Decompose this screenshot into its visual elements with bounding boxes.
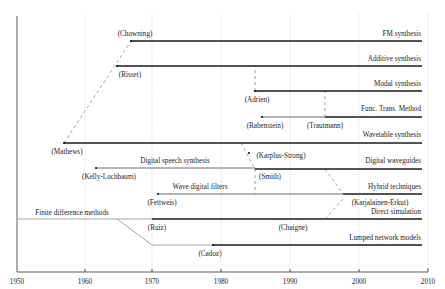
author-risset: (Risset) [119, 71, 142, 79]
author-kelly-lochbaum: (Kelly-Lochbaum) [82, 173, 136, 181]
influence-links [64, 41, 343, 219]
label-fm-synthesis: FM synthesis [382, 30, 421, 38]
author-mathews: (Mathews) [51, 148, 83, 156]
author-rabenstein: (Rabenstein) [247, 122, 284, 130]
author-chaigne: (Chaigne) [279, 224, 308, 232]
author-ruiz: (Ruiz) [148, 224, 167, 232]
tick-1960: 1960 [78, 278, 93, 286]
author-smith: (Smith) [259, 173, 282, 181]
label-hybrid-techniques: Hybrid techniques [368, 183, 421, 191]
author-labels: (Chowning) (Risset) (Adrien) (Trautmann)… [51, 30, 409, 258]
tick-2000: 2000 [352, 278, 367, 286]
author-fettweis: (Fettweis) [147, 199, 177, 207]
author-karjalainen-erkut: (Karjalainen-Erkut) [352, 199, 409, 207]
author-trautmann: (Trautmann) [307, 122, 344, 130]
author-chowning: (Chowning) [118, 30, 153, 38]
label-finite-difference-methods: Finite difference methods [35, 209, 109, 217]
label-additive-synthesis: Additive synthesis [368, 55, 422, 63]
finite-difference-lines [17, 219, 213, 245]
label-wavetable-synthesis: Wavetable synthesis [363, 131, 422, 139]
tick-2010: 2010 [421, 278, 436, 286]
timeline-diagram: 1950 1960 1970 1980 1990 2000 2010 [0, 0, 445, 289]
tick-1990: 1990 [283, 278, 298, 286]
label-direct-simulation: Direct simulation [371, 208, 422, 216]
label-wave-digital-filters: Wave digital filters [173, 183, 228, 191]
author-karplus-strong: (Karplus-Strong) [256, 152, 306, 160]
tick-1980: 1980 [214, 278, 229, 286]
label-lumped-network-models: Lumped network models [349, 234, 421, 242]
method-labels: FM synthesis Additive synthesis Modal sy… [35, 30, 421, 242]
tick-1970: 1970 [145, 278, 160, 286]
label-func-trans-method: Func. Trans. Method [361, 105, 421, 113]
label-modal-synthesis: Modal synthesis [374, 80, 421, 88]
thick-lines [64, 41, 422, 245]
tick-1950: 1950 [10, 278, 25, 286]
label-digital-waveguides: Digital waveguides [365, 157, 421, 165]
author-cadoz: (Cadoz) [198, 250, 222, 258]
label-digital-speech-synthesis: Digital speech synthesis [140, 157, 210, 165]
x-tick-labels: 1950 1960 1970 1980 1990 2000 2010 [10, 278, 436, 286]
author-adrien: (Adrien) [245, 96, 270, 104]
